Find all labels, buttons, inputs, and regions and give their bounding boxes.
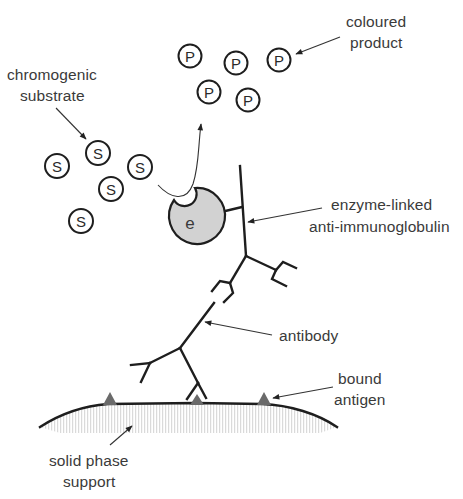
label-solid-phase-support: solid phase support xyxy=(49,426,132,490)
svg-text:S: S xyxy=(93,145,103,162)
svg-text:antigen: antigen xyxy=(334,391,386,408)
substrate-molecule: S xyxy=(86,141,110,165)
svg-text:S: S xyxy=(135,159,145,176)
antigen-triangle xyxy=(190,394,204,405)
svg-text:bound: bound xyxy=(338,370,382,387)
svg-text:P: P xyxy=(243,92,253,109)
svg-text:support: support xyxy=(63,473,116,490)
svg-text:S: S xyxy=(106,181,116,198)
label-antibody: antibody xyxy=(205,322,339,344)
solid-phase-support xyxy=(40,403,337,433)
label-enzyme-linked-anti-immunoglobulin: enzyme-linked anti-immunoglobulin xyxy=(248,196,450,235)
product-molecule: P xyxy=(179,45,202,68)
antigen-triangle xyxy=(257,392,271,405)
svg-text:P: P xyxy=(274,52,284,69)
svg-text:solid phase: solid phase xyxy=(49,452,129,469)
elisa-diagram: e S S S S S P P P P P chromogenic substr… xyxy=(0,0,463,499)
svg-text:P: P xyxy=(204,84,214,101)
substrate-molecule: S xyxy=(99,177,123,201)
svg-text:chromogenic: chromogenic xyxy=(7,66,97,83)
antigen-triangle xyxy=(103,392,117,405)
substrate-molecule: S xyxy=(128,155,152,179)
substrate-molecules: S S S S S xyxy=(45,141,152,233)
svg-text:P: P xyxy=(185,48,195,65)
svg-text:coloured: coloured xyxy=(346,13,406,30)
svg-text:S: S xyxy=(52,158,62,175)
product-molecule: P xyxy=(268,49,291,72)
svg-text:S: S xyxy=(76,213,86,230)
substrate-molecule: S xyxy=(45,154,69,178)
label-coloured-product: coloured product xyxy=(296,13,406,54)
svg-text:enzyme-linked: enzyme-linked xyxy=(331,196,432,213)
product-molecule: P xyxy=(225,52,248,75)
product-molecule: P xyxy=(237,89,260,112)
svg-text:substrate: substrate xyxy=(20,87,85,104)
reaction-arrow xyxy=(158,124,201,197)
product-molecule: P xyxy=(198,81,221,104)
svg-text:antibody: antibody xyxy=(279,327,339,344)
enzyme-linked-anti-immunoglobulin xyxy=(212,166,296,302)
svg-text:anti-immunoglobulin: anti-immunoglobulin xyxy=(309,218,450,235)
svg-text:P: P xyxy=(231,55,241,72)
svg-text:product: product xyxy=(350,34,403,51)
substrate-molecule: S xyxy=(69,209,93,233)
product-molecules: P P P P P xyxy=(179,45,291,112)
antibody xyxy=(131,303,214,399)
enzyme-symbol: e xyxy=(185,214,194,233)
label-bound-antigen: bound antigen xyxy=(273,370,386,408)
label-chromogenic-substrate: chromogenic substrate xyxy=(7,66,97,139)
